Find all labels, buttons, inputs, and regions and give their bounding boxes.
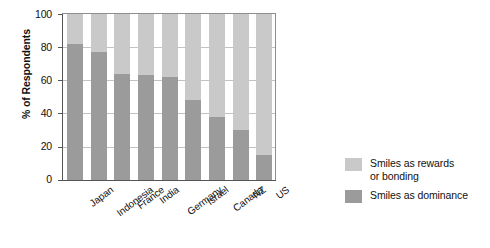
bar-group <box>67 14 83 180</box>
chart-figure: % of Respondents 100 80 60 40 20 0 Japan… <box>0 0 490 248</box>
bar-segment-rewards <box>138 14 154 75</box>
bar-segment-rewards <box>209 14 225 117</box>
y-tick-label-20: 20 <box>22 140 52 152</box>
legend-label-dominance: Smiles as dominance <box>370 189 468 202</box>
bar-segment-dominance <box>209 117 225 180</box>
legend-swatch-rewards <box>345 158 362 171</box>
bar-group <box>233 14 249 180</box>
bar-segment-rewards <box>233 14 249 130</box>
y-tick-label-40: 40 <box>22 107 52 119</box>
legend-label-rewards: Smiles as rewards or bonding <box>370 157 454 182</box>
bar-segment-dominance <box>114 74 130 180</box>
bar-group <box>209 14 225 180</box>
plot-area <box>62 14 276 181</box>
bar-segment-rewards <box>114 14 130 74</box>
x-tick-label: US <box>274 184 292 201</box>
bar-segment-dominance <box>91 52 107 180</box>
y-tick-mark-0 <box>58 180 63 181</box>
legend-swatch-dominance <box>345 190 362 203</box>
bar-group <box>185 14 201 180</box>
chart-legend: Smiles as rewards or bonding Smiles as d… <box>345 157 485 210</box>
y-tick-label-60: 60 <box>22 74 52 86</box>
bar-segment-dominance <box>185 100 201 180</box>
legend-item-dominance: Smiles as dominance <box>345 189 485 203</box>
bar-group <box>162 14 178 180</box>
bar-segment-rewards <box>162 14 178 77</box>
bar-segment-dominance <box>67 44 83 180</box>
bar-segment-dominance <box>256 155 272 180</box>
bar-segment-dominance <box>233 130 249 180</box>
bar-group <box>91 14 107 180</box>
bar-segment-rewards <box>91 14 107 52</box>
bar-group <box>138 14 154 180</box>
x-tick-label: Japan <box>87 184 115 209</box>
bar-segment-dominance <box>162 77 178 180</box>
legend-item-rewards: Smiles as rewards or bonding <box>345 157 485 182</box>
bar-group <box>114 14 130 180</box>
x-tick-label: Israel <box>205 184 231 207</box>
y-tick-label-100: 100 <box>22 8 52 20</box>
bars-layer <box>63 14 276 180</box>
bar-group <box>256 14 272 180</box>
bar-segment-rewards <box>256 14 272 155</box>
y-tick-label-80: 80 <box>22 41 52 53</box>
bar-segment-rewards <box>67 14 83 44</box>
y-tick-label-0: 0 <box>22 173 52 185</box>
bar-segment-dominance <box>138 75 154 180</box>
bar-segment-rewards <box>185 14 201 100</box>
